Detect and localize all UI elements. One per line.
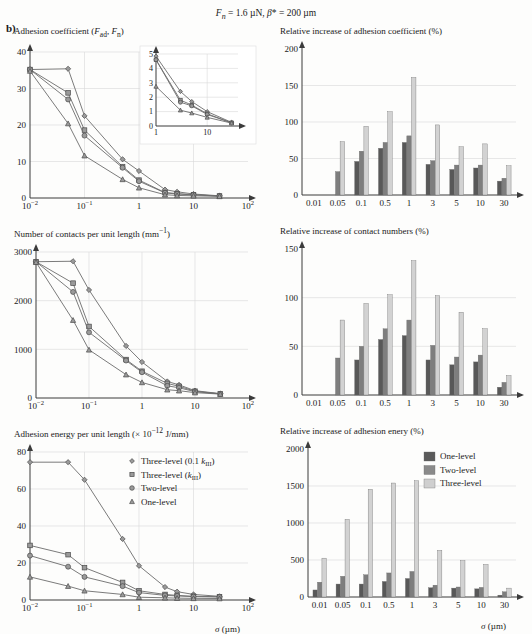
svg-text:10−1: 10−1 [76, 199, 92, 211]
plot-area-adhesion-energy: 02040608010−210−1110102Three-level (0.1 … [0, 440, 266, 634]
svg-text:60: 60 [17, 484, 27, 494]
svg-text:10−1: 10−1 [76, 601, 92, 613]
svg-text:0.5: 0.5 [383, 600, 395, 610]
svg-text:0: 0 [294, 190, 299, 200]
svg-text:4: 4 [149, 64, 153, 73]
plot-area-rel-adhesion-energy: 05001000150020000.010.050.10.51351030One… [266, 437, 532, 633]
svg-text:0.01: 0.01 [306, 198, 322, 208]
svg-text:0.1: 0.1 [356, 398, 367, 408]
svg-text:10: 10 [203, 128, 211, 137]
svg-text:150: 150 [285, 81, 299, 91]
chart-title-number-of-contacts: Number of contacts per unit length (mm−1… [14, 226, 266, 239]
chart-title-rel-adhesion-energy: Relative increase of adhesion enery (%) [280, 426, 532, 436]
svg-text:80: 80 [17, 447, 27, 457]
svg-text:2000: 2000 [14, 296, 33, 306]
svg-text:10: 10 [477, 600, 487, 610]
svg-text:3: 3 [433, 600, 438, 610]
svg-text:5: 5 [456, 600, 461, 610]
svg-text:102: 102 [242, 399, 254, 411]
svg-text:100: 100 [285, 293, 299, 303]
svg-text:1: 1 [410, 600, 415, 610]
svg-text:0.5: 0.5 [380, 198, 392, 208]
svg-text:5: 5 [454, 198, 459, 208]
right-column: Relative increase of adhesion coefficien… [266, 26, 532, 634]
svg-text:500: 500 [291, 555, 305, 565]
svg-text:0.5: 0.5 [380, 398, 392, 408]
left-column: Adhesion coefficient (Fad, Fn) 010203040… [0, 26, 266, 634]
svg-text:2000: 2000 [286, 444, 305, 454]
svg-text:50: 50 [289, 342, 299, 352]
svg-text:5: 5 [454, 398, 459, 408]
svg-text:0.05: 0.05 [330, 398, 346, 408]
svg-text:1: 1 [407, 198, 412, 208]
plot-area-number-of-contacts: 010002000300010−210−1110102 [0, 240, 266, 425]
svg-text:10−2: 10−2 [28, 399, 44, 411]
svg-text:10: 10 [191, 401, 201, 411]
svg-text:10: 10 [476, 198, 486, 208]
chart-title-rel-contact-numbers: Relative increase of contact numbers (%) [280, 226, 532, 236]
svg-text:Three-level (kIII): Three-level (kIII) [141, 470, 201, 481]
svg-text:1000: 1000 [14, 345, 33, 355]
svg-text:1: 1 [140, 401, 145, 411]
svg-text:0.05: 0.05 [335, 600, 351, 610]
svg-text:Two-level: Two-level [141, 483, 178, 493]
svg-text:One-level: One-level [141, 497, 177, 507]
svg-text:20: 20 [17, 558, 27, 568]
svg-text:102: 102 [242, 601, 254, 613]
svg-text:150: 150 [285, 244, 299, 254]
svg-text:30: 30 [500, 600, 510, 610]
plot-area-rel-contact-numbers: 0501001500.010.050.10.51351030 [266, 237, 532, 422]
figure-page: b) Fn = 1.6 µN, β* = 200 µm Adhesion coe… [0, 0, 532, 634]
svg-text:1: 1 [407, 398, 412, 408]
svg-text:Three-level: Three-level [440, 478, 482, 488]
svg-text:40: 40 [17, 47, 27, 57]
svg-text:5: 5 [149, 50, 153, 59]
svg-text:200: 200 [285, 44, 299, 54]
chart-relative-increase-contact-numbers: Relative increase of contact numbers (%)… [266, 226, 532, 426]
chart-title-adhesion-energy: Adhesion energy per unit length (× 10−12… [14, 426, 266, 439]
svg-text:3: 3 [431, 398, 436, 408]
svg-text:One-level: One-level [440, 451, 476, 461]
chart-title-rel-adhesion-coefficient: Relative increase of adhesion coefficien… [280, 26, 532, 36]
svg-text:1: 1 [149, 107, 153, 116]
svg-text:10: 10 [476, 398, 486, 408]
svg-text:10: 10 [17, 156, 27, 166]
xaxis-label-right: σ (µm) [481, 621, 506, 631]
svg-text:30: 30 [500, 398, 510, 408]
chart-title-adhesion-coefficient: Adhesion coefficient (Fad, Fn) [14, 26, 266, 39]
svg-text:3: 3 [149, 78, 153, 87]
svg-text:0.01: 0.01 [306, 398, 322, 408]
svg-text:20: 20 [17, 120, 27, 130]
svg-text:10−1: 10−1 [81, 399, 97, 411]
svg-text:1500: 1500 [286, 481, 305, 491]
svg-text:1: 1 [154, 128, 158, 137]
svg-text:1: 1 [137, 201, 142, 211]
svg-text:30: 30 [500, 198, 510, 208]
svg-text:0.05: 0.05 [330, 198, 346, 208]
svg-text:0.1: 0.1 [360, 600, 371, 610]
svg-text:50: 50 [289, 154, 299, 164]
chart-adhesion-energy: Adhesion energy per unit length (× 10−12… [0, 426, 266, 634]
svg-text:40: 40 [17, 521, 27, 531]
plot-area-rel-adhesion-coefficient: 0501001502000.010.050.10.51351030 [266, 37, 532, 222]
svg-text:102: 102 [242, 199, 254, 211]
svg-text:1000: 1000 [286, 518, 305, 528]
svg-text:Three-level (0.1 kIII): Three-level (0.1 kIII) [141, 456, 215, 467]
svg-text:100: 100 [285, 117, 299, 127]
svg-text:10: 10 [189, 603, 199, 613]
chart-number-of-contacts: Number of contacts per unit length (mm−1… [0, 226, 266, 426]
chart-relative-increase-adhesion-coefficient: Relative increase of adhesion coefficien… [266, 26, 532, 226]
svg-text:Two-level: Two-level [440, 465, 477, 475]
svg-text:10−2: 10−2 [22, 601, 38, 613]
svg-text:3000: 3000 [14, 247, 33, 257]
svg-text:0: 0 [300, 592, 305, 602]
chart-relative-increase-adhesion-energy: Relative increase of adhesion enery (%) … [266, 426, 532, 634]
plot-area-adhesion-coefficient: 01020304010−210−1110102 012345110 [0, 40, 266, 225]
svg-text:2: 2 [149, 93, 153, 102]
svg-text:0: 0 [294, 390, 299, 400]
svg-text:0.01: 0.01 [312, 600, 328, 610]
svg-text:3: 3 [431, 198, 436, 208]
chart-adhesion-coefficient: Adhesion coefficient (Fad, Fn) 010203040… [0, 26, 266, 226]
svg-text:10: 10 [189, 201, 199, 211]
xaxis-label-left: σ (µm) [215, 624, 240, 634]
